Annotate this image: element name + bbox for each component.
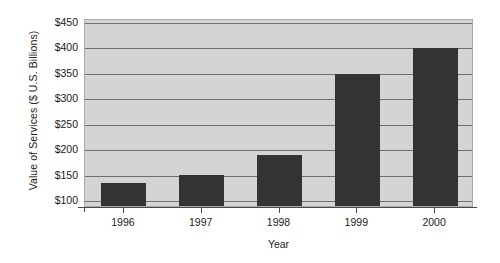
bar <box>257 155 302 206</box>
gridline <box>85 23 472 24</box>
y-axis-tick-label: $300 <box>55 92 78 104</box>
plot-area <box>84 19 473 207</box>
bar <box>413 48 458 206</box>
bar-chart: Value of Services ($ U.S. Billions) $450… <box>0 0 500 263</box>
y-axis-tick-label: $100 <box>55 194 78 206</box>
x-axis-title: Year <box>84 238 473 250</box>
bar <box>335 74 380 206</box>
bar <box>101 183 146 206</box>
x-axis-tick-mark <box>279 207 280 213</box>
x-axis-tick-mark <box>434 207 435 213</box>
x-axis-tick-label: 1996 <box>111 216 134 228</box>
y-axis-tick-label: $450 <box>55 16 78 28</box>
y-axis-tick-label: $200 <box>55 143 78 155</box>
y-axis-tick-labels: $450$400$350$300$250$200$150$100 <box>30 12 78 208</box>
x-axis-tick-label: 2000 <box>422 216 445 228</box>
x-axis-tick-mark <box>123 207 124 213</box>
x-axis-tick-label: 1999 <box>345 216 368 228</box>
bar <box>179 175 224 206</box>
x-axis-tick-label: 1998 <box>267 216 290 228</box>
x-axis-tick-label: 1997 <box>189 216 212 228</box>
y-axis-tick-label: $400 <box>55 41 78 53</box>
y-axis-tick-label: $250 <box>55 118 78 130</box>
y-axis-tick-label: $350 <box>55 67 78 79</box>
x-axis-line <box>78 207 477 208</box>
x-axis-tick-mark <box>201 207 202 213</box>
x-axis-tick-mark <box>356 207 357 213</box>
y-axis-tick-label: $150 <box>55 169 78 181</box>
